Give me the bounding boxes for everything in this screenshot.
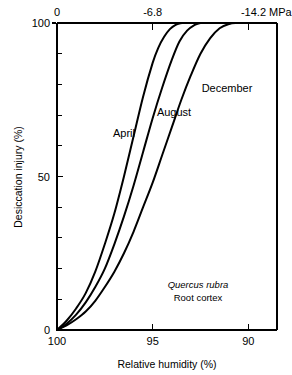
top-tick-label-1: -6.8 — [143, 6, 162, 18]
y-tick-label-100: 100 — [32, 17, 50, 29]
x-tick-label-95: 95 — [147, 335, 159, 347]
curve-label-april: April — [113, 127, 135, 139]
annotation-species: Quercus rubra — [168, 279, 229, 290]
y-tick-label-50: 50 — [38, 171, 50, 183]
y-axis-title: Desiccation injury (%) — [12, 126, 24, 228]
top-tick-label-0: 0 — [54, 6, 60, 18]
top-tick-label-2: -14.2 MPa — [241, 6, 292, 18]
x-axis-title: Relative humidity (%) — [117, 358, 216, 370]
x-tick-label-90: 90 — [242, 335, 254, 347]
chart-figure: 0-6.8-14.2 MPa 050100 1009590 Desiccatio… — [0, 0, 292, 375]
x-tick-label-100: 100 — [48, 335, 66, 347]
desiccation-injury-chart: 0-6.8-14.2 MPa 050100 1009590 Desiccatio… — [0, 0, 292, 375]
annotation-tissue: Root cortex — [174, 292, 223, 303]
curve-label-august: August — [157, 106, 191, 118]
curve-label-december: December — [202, 82, 253, 94]
chart-background — [0, 0, 292, 375]
